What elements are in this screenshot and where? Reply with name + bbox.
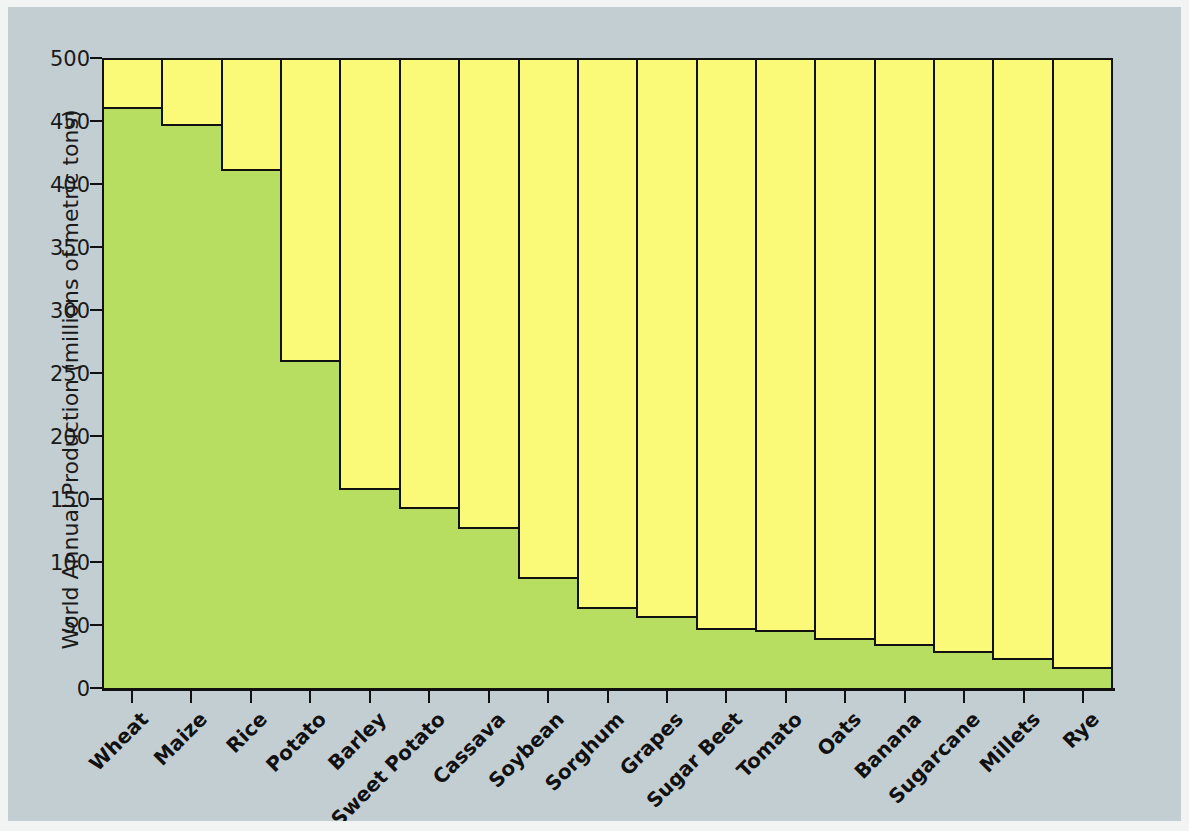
y-axis-tick bbox=[90, 561, 102, 563]
bar-fill[interactable] bbox=[874, 644, 933, 688]
x-axis-tick-label: Oats bbox=[813, 707, 867, 761]
x-axis-tick bbox=[488, 690, 490, 703]
x-axis-tick bbox=[428, 690, 430, 703]
x-axis-tick-label: Millets bbox=[974, 707, 1044, 777]
x-axis-tick bbox=[666, 690, 668, 703]
x-axis-tick-label: Maize bbox=[149, 707, 212, 770]
plot-area bbox=[102, 58, 1113, 688]
bar-fill[interactable] bbox=[1052, 667, 1111, 688]
x-axis-tick bbox=[131, 690, 133, 703]
y-axis-tick-label: 300 bbox=[30, 299, 90, 323]
y-axis-tick-label: 450 bbox=[30, 110, 90, 134]
bar-column[interactable] bbox=[339, 58, 398, 688]
bar-fill[interactable] bbox=[280, 360, 339, 688]
bar-fill[interactable] bbox=[577, 607, 636, 688]
bar-column[interactable] bbox=[636, 58, 695, 688]
x-axis-tick bbox=[309, 690, 311, 703]
y-axis-tick bbox=[90, 498, 102, 500]
y-axis-tick bbox=[90, 120, 102, 122]
bar-fill[interactable] bbox=[221, 169, 280, 688]
y-axis-tick-label: 200 bbox=[30, 425, 90, 449]
bar-fill[interactable] bbox=[992, 658, 1051, 688]
x-axis-tick bbox=[607, 690, 609, 703]
chart-figure: World Annual Production (millions of met… bbox=[8, 7, 1181, 821]
bar-fill[interactable] bbox=[636, 616, 695, 688]
y-axis-tick-label: 500 bbox=[30, 47, 90, 71]
y-axis-tick bbox=[90, 183, 102, 185]
x-axis-tick bbox=[725, 690, 727, 703]
y-axis-tick bbox=[90, 687, 102, 689]
x-axis-tick bbox=[190, 690, 192, 703]
bar-fill[interactable] bbox=[518, 577, 577, 688]
y-axis-line bbox=[102, 58, 104, 690]
x-axis-tick bbox=[369, 690, 371, 703]
bar-column[interactable] bbox=[933, 58, 992, 688]
bar-fill[interactable] bbox=[814, 638, 873, 688]
bar-fill[interactable] bbox=[696, 628, 755, 688]
x-axis-tick-label: Rice bbox=[221, 707, 272, 758]
x-axis-tick-label: Potato bbox=[261, 707, 331, 777]
bar-fill[interactable] bbox=[755, 630, 814, 688]
x-axis-tick bbox=[547, 690, 549, 703]
bar-column[interactable] bbox=[221, 58, 280, 688]
x-axis-tick-label: Wheat bbox=[84, 707, 153, 776]
y-axis-tick-label: 350 bbox=[30, 236, 90, 260]
y-axis-tick bbox=[90, 309, 102, 311]
x-axis-tick bbox=[1082, 690, 1084, 703]
x-axis-tick bbox=[250, 690, 252, 703]
bar-column[interactable] bbox=[161, 58, 220, 688]
bar-fill[interactable] bbox=[933, 651, 992, 688]
y-axis-tick bbox=[90, 435, 102, 437]
x-axis-tick-label: Tomato bbox=[732, 707, 807, 782]
bar-column[interactable] bbox=[399, 58, 458, 688]
y-axis-tick bbox=[90, 57, 102, 59]
bar-fill[interactable] bbox=[339, 488, 398, 688]
bar-fill[interactable] bbox=[399, 507, 458, 688]
x-axis-tick bbox=[1023, 690, 1025, 703]
bar-series bbox=[102, 58, 1113, 688]
bar-column[interactable] bbox=[696, 58, 755, 688]
y-axis-tick-label: 50 bbox=[30, 614, 90, 638]
y-axis-tick bbox=[90, 624, 102, 626]
bar-fill[interactable] bbox=[104, 107, 161, 688]
bar-fill[interactable] bbox=[458, 527, 517, 688]
bar-fill[interactable] bbox=[161, 124, 220, 688]
x-axis-tick bbox=[963, 690, 965, 703]
y-axis-tick-label: 150 bbox=[30, 488, 90, 512]
x-axis-tick bbox=[904, 690, 906, 703]
y-axis-tick bbox=[90, 246, 102, 248]
x-axis-tick bbox=[785, 690, 787, 703]
bar-column[interactable] bbox=[102, 58, 161, 688]
x-axis-tick bbox=[844, 690, 846, 703]
bar-column[interactable] bbox=[280, 58, 339, 688]
y-axis-tick-label: 0 bbox=[30, 677, 90, 701]
bar-column[interactable] bbox=[874, 58, 933, 688]
bar-column[interactable] bbox=[1052, 58, 1113, 688]
x-axis-tick-label: Rye bbox=[1058, 707, 1104, 753]
bar-column[interactable] bbox=[992, 58, 1051, 688]
y-axis-tick-label: 100 bbox=[30, 551, 90, 575]
y-axis-tick-label: 250 bbox=[30, 362, 90, 386]
bar-column[interactable] bbox=[518, 58, 577, 688]
bar-column[interactable] bbox=[814, 58, 873, 688]
bar-column[interactable] bbox=[755, 58, 814, 688]
bar-column[interactable] bbox=[458, 58, 517, 688]
y-axis-tick-label: 400 bbox=[30, 173, 90, 197]
bar-column[interactable] bbox=[577, 58, 636, 688]
y-axis-tick bbox=[90, 372, 102, 374]
